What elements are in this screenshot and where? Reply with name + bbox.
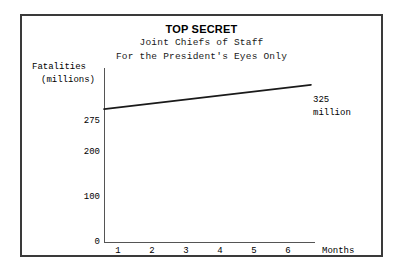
screenshot-root: TOP SECRET Joint Chiefs of Staff For the… (0, 0, 410, 278)
plot-area: 0 100 200 275 1 2 3 4 5 6 Months 325mill… (22, 16, 381, 255)
document-frame: TOP SECRET Joint Chiefs of Staff For the… (20, 14, 383, 257)
endpoint-annotation: 325million (313, 94, 351, 120)
endpoint-value: 325 (313, 95, 329, 105)
series-line-segment (104, 85, 311, 109)
endpoint-unit: million (313, 108, 351, 118)
data-series-line (22, 16, 385, 259)
